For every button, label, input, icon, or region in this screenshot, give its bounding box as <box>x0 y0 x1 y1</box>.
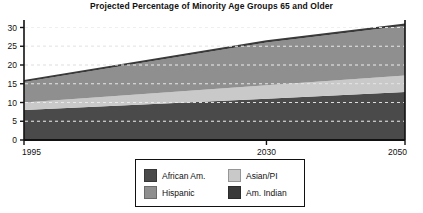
y-tick-label: 5 <box>12 116 17 126</box>
y-tick-label: 0 <box>12 135 17 145</box>
legend-label-am-indian: Am. Indian <box>246 188 287 198</box>
y-axis-ticks: 051015202530 <box>8 23 24 146</box>
legend-swatch-african-am <box>144 169 157 182</box>
legend-item-asian-pi: Asian/PI <box>228 169 298 182</box>
x-axis-ticks: 199520302050 <box>22 140 407 157</box>
chart-legend: African Am. Asian/PI Hispanic Am. Indian <box>135 159 305 207</box>
y-tick-label: 25 <box>8 41 18 51</box>
legend-swatch-am-indian <box>228 186 241 199</box>
legend-swatch-hispanic <box>144 186 157 199</box>
x-tick-label: 2050 <box>388 147 407 157</box>
legend-item-am-indian: Am. Indian <box>228 186 298 199</box>
y-tick-label: 20 <box>8 60 18 70</box>
chart-container: Projected Percentage of Minority Age Gro… <box>0 0 423 213</box>
legend-label-asian-pi: Asian/PI <box>246 171 278 181</box>
y-tick-label: 10 <box>8 98 18 108</box>
legend-swatch-asian-pi <box>228 169 241 182</box>
legend-item-african-am: African Am. <box>144 169 228 182</box>
x-tick-label: 1995 <box>22 147 41 157</box>
y-tick-label: 30 <box>8 23 18 33</box>
legend-label-african-am: African Am. <box>162 171 205 181</box>
legend-item-hispanic: Hispanic <box>144 186 228 199</box>
y-tick-label: 15 <box>8 79 18 89</box>
legend-label-hispanic: Hispanic <box>162 188 195 198</box>
x-tick-label: 2030 <box>257 147 276 157</box>
